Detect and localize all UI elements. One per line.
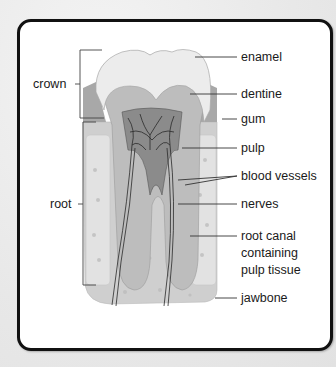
label-enamel: enamel (241, 49, 282, 65)
label-dentine: dentine (241, 86, 282, 102)
label-pulp: pulp (241, 140, 265, 156)
label-nerves: nerves (241, 196, 279, 212)
label-crown: crown (33, 76, 66, 92)
label-root-canal-line2: containing (241, 245, 298, 261)
label-jawbone: jawbone (241, 290, 288, 306)
label-root: root (50, 196, 72, 212)
bone-column-left (86, 135, 110, 285)
label-blood-vessels: blood vessels (241, 168, 317, 184)
label-gum: gum (241, 111, 265, 127)
label-root-canal-line3: pulp tissue (241, 262, 301, 278)
label-root-canal-line1: root canal (241, 228, 296, 244)
